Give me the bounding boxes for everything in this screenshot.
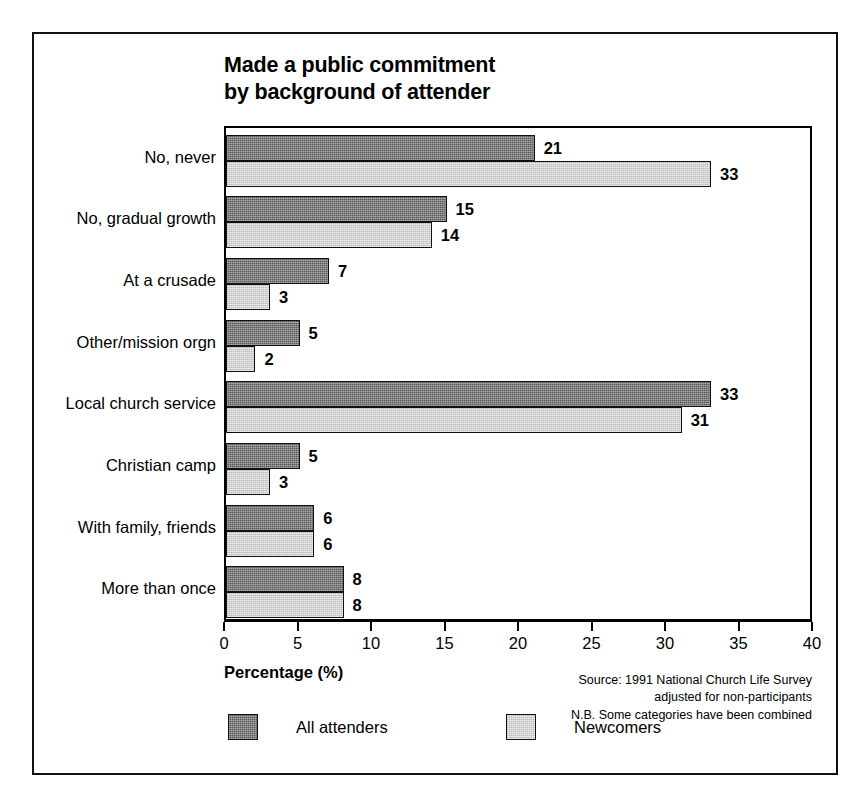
bar-value-label: 14 [441, 226, 459, 245]
category-label: Christian camp [106, 455, 216, 474]
bar-value-label: 8 [353, 570, 362, 589]
x-axis-title: Percentage (%) [224, 663, 343, 682]
chart-title: Made a public commitment by background o… [224, 52, 784, 107]
bar-value-label: 2 [264, 349, 273, 368]
x-tick [223, 622, 225, 631]
bar-all-attenders [226, 320, 300, 346]
bar-value-label: 8 [353, 596, 362, 615]
x-tick [811, 622, 813, 631]
category-label: With family, friends [78, 517, 216, 536]
category-label: More than once [101, 579, 216, 598]
plot-area: 2133151473523331536688 [224, 126, 812, 619]
x-tick [297, 622, 299, 631]
bar-newcomers [226, 161, 711, 187]
bar-value-label: 5 [309, 446, 318, 465]
legend-item-all-attenders: All attenders [228, 712, 388, 742]
x-tick [370, 622, 372, 631]
x-tick-label: 30 [656, 634, 674, 653]
bar-newcomers [226, 592, 344, 618]
legend-swatch [506, 714, 536, 740]
category-label: At a crusade [123, 271, 216, 290]
x-tick-label: 15 [435, 634, 453, 653]
x-tick-label: 20 [509, 634, 527, 653]
bar-newcomers [226, 284, 270, 310]
bar-newcomers [226, 531, 314, 557]
bar-all-attenders [226, 135, 535, 161]
x-tick-label: 10 [362, 634, 380, 653]
x-tick-label: 5 [293, 634, 302, 653]
bar-value-label: 33 [720, 385, 738, 404]
category-label: No, never [144, 147, 216, 166]
legend-label: All attenders [296, 718, 388, 737]
source-note: Source: 1991 National Church Life Survey… [571, 672, 812, 724]
x-tick [664, 622, 666, 631]
bar-all-attenders [226, 196, 447, 222]
x-tick-label: 25 [582, 634, 600, 653]
category-label: No, gradual growth [77, 209, 216, 228]
bar-newcomers [226, 407, 682, 433]
x-tick-label: 40 [803, 634, 821, 653]
bar-value-label: 3 [279, 288, 288, 307]
bar-all-attenders [226, 566, 344, 592]
legend-swatch [228, 714, 258, 740]
bar-value-label: 21 [544, 138, 562, 157]
bar-value-label: 31 [691, 411, 709, 430]
bar-all-attenders [226, 258, 329, 284]
category-label: Local church service [66, 394, 216, 413]
bar-value-label: 33 [720, 164, 738, 183]
bar-all-attenders [226, 505, 314, 531]
bar-value-label: 7 [338, 262, 347, 281]
chart-page: Made a public commitment by background o… [0, 0, 864, 799]
category-label: Other/mission orgn [77, 332, 216, 351]
bar-newcomers [226, 346, 255, 372]
x-tick [444, 622, 446, 631]
x-tick [591, 622, 593, 631]
bar-all-attenders [226, 443, 300, 469]
bar-newcomers [226, 469, 270, 495]
bar-value-label: 6 [323, 508, 332, 527]
bar-value-label: 3 [279, 472, 288, 491]
bar-all-attenders [226, 381, 711, 407]
bar-newcomers [226, 222, 432, 248]
y-axis-category-labels: No, neverNo, gradual growthAt a crusadeO… [40, 126, 216, 619]
x-tick [517, 622, 519, 631]
bar-value-label: 5 [309, 323, 318, 342]
bar-value-label: 15 [456, 200, 474, 219]
x-tick [738, 622, 740, 631]
x-tick-label: 35 [729, 634, 747, 653]
bars-container: 2133151473523331536688 [226, 128, 810, 619]
bar-value-label: 6 [323, 534, 332, 553]
x-tick-label: 0 [219, 634, 228, 653]
